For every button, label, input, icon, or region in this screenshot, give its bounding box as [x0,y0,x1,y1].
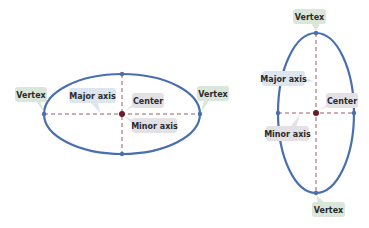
vertex-dot [314,31,318,35]
horizontal-ellipse-group: Vertex Vertex Major axis Center Minor ax… [15,72,229,156]
label-center: Center [318,93,358,111]
center-dot [313,110,319,116]
label-minor-axis: Minor axis [264,115,311,141]
co-vertex-dot [120,72,124,76]
label-text: Vertex [16,91,46,100]
ellipse-diagram: Vertex Vertex Major axis Center Minor ax… [0,0,369,228]
label-text: Vertex [198,90,228,99]
label-text: Center [327,97,357,106]
label-major-axis: Major axis [69,88,116,113]
vertex-dot [198,112,202,116]
label-vertex-top: Vertex [293,9,326,31]
label-vertex-right: Vertex [197,86,229,112]
co-vertex-dot [276,111,280,115]
label-text: Minor axis [131,122,178,131]
vertex-dot [314,191,318,195]
vertical-ellipse-group: Vertex Vertex Major axis Center Minor ax… [260,9,358,217]
vertex-dot [42,112,46,116]
label-vertex-left: Vertex [15,87,47,112]
center-dot [119,111,125,117]
label-text: Minor axis [264,130,311,139]
label-major-axis: Major axis [260,71,314,86]
label-text: Center [133,97,163,106]
label-vertex-bottom: Vertex [312,195,345,217]
label-minor-axis: Minor axis [124,116,178,133]
label-text: Major axis [260,75,307,84]
label-center: Center [124,93,164,112]
label-text: Vertex [295,13,325,22]
co-vertex-dot [120,152,124,156]
label-text: Vertex [314,206,344,215]
label-text: Major axis [69,92,116,101]
co-vertex-dot [352,111,356,115]
